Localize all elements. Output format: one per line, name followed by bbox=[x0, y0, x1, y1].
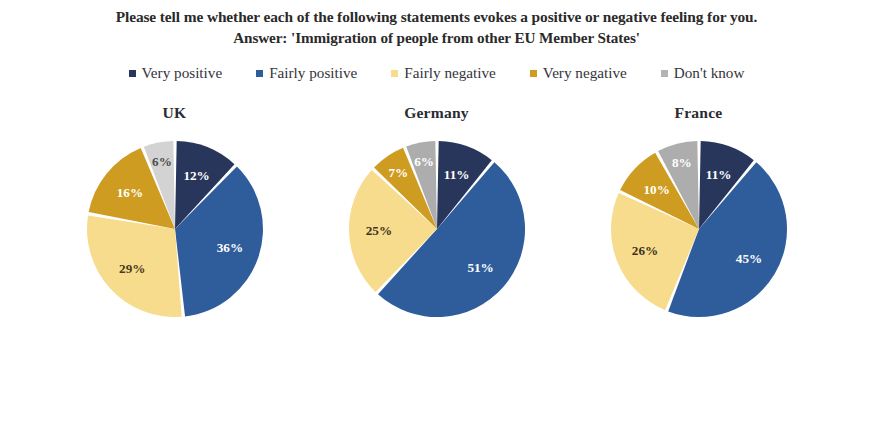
pie-slice-label: 11% bbox=[705, 167, 731, 182]
legend-item[interactable]: Fairly positive bbox=[256, 64, 357, 82]
pie-slice-label: 11% bbox=[443, 167, 469, 182]
pie-chart-caption: France bbox=[675, 104, 723, 122]
legend-item-label: Don't know bbox=[674, 64, 745, 82]
pie-slice-label: 36% bbox=[216, 240, 242, 255]
legend-item-label: Fairly negative bbox=[404, 64, 496, 82]
page-title-line-1: Please tell me whether each of the follo… bbox=[0, 6, 873, 27]
pie-graphic: 11%51%25%7%6% bbox=[346, 138, 528, 320]
pie-slice-label: 10% bbox=[643, 182, 669, 197]
pie-chart-caption: Germany bbox=[404, 104, 469, 122]
pie-slice-label: 26% bbox=[631, 243, 657, 258]
legend-item[interactable]: Don't know bbox=[661, 64, 745, 82]
pie-chart-caption: UK bbox=[163, 104, 187, 122]
pie-slice-label: 12% bbox=[183, 168, 209, 183]
pie-slice-label: 25% bbox=[365, 223, 391, 238]
pie-slice-label: 6% bbox=[414, 154, 434, 169]
pie-chart-uk: UK12%36%29%16%6% bbox=[44, 104, 306, 320]
pie-chart-germany: Germany11%51%25%7%6% bbox=[306, 104, 568, 320]
pie-graphic: 12%36%29%16%6% bbox=[84, 138, 266, 320]
page-title-line-2: Answer: 'Immigration of people from othe… bbox=[0, 27, 873, 48]
legend-item[interactable]: Very negative bbox=[530, 64, 627, 82]
pie-chart-france: France11%45%26%10%8% bbox=[568, 104, 830, 320]
legend-item-label: Fairly positive bbox=[269, 64, 357, 82]
pie-slice-label: 8% bbox=[672, 155, 692, 170]
pie-slice-label: 7% bbox=[388, 165, 408, 180]
pie-charts-row: UK12%36%29%16%6%Germany11%51%25%7%6%Fran… bbox=[0, 104, 873, 320]
legend-item-label: Very negative bbox=[543, 64, 627, 82]
legend-swatch-very-negative bbox=[530, 70, 537, 77]
chart-legend: Very positiveFairly positiveFairly negat… bbox=[0, 64, 873, 82]
legend-swatch-fairly-positive bbox=[256, 70, 263, 77]
pie-slice-label: 45% bbox=[735, 251, 761, 266]
pie-slice-label: 6% bbox=[152, 154, 172, 169]
legend-swatch-very-positive bbox=[129, 70, 136, 77]
pie-graphic: 11%45%26%10%8% bbox=[608, 138, 790, 320]
legend-swatch-fairly-negative bbox=[391, 70, 398, 77]
legend-item[interactable]: Very positive bbox=[129, 64, 223, 82]
legend-swatch-dont-know bbox=[661, 70, 668, 77]
chart-title-block: Please tell me whether each of the follo… bbox=[0, 0, 873, 48]
pie-slice-label: 29% bbox=[119, 261, 145, 276]
pie-slice-label: 51% bbox=[467, 260, 493, 275]
legend-item-label: Very positive bbox=[142, 64, 223, 82]
legend-item[interactable]: Fairly negative bbox=[391, 64, 496, 82]
pie-slice-label: 16% bbox=[116, 185, 142, 200]
